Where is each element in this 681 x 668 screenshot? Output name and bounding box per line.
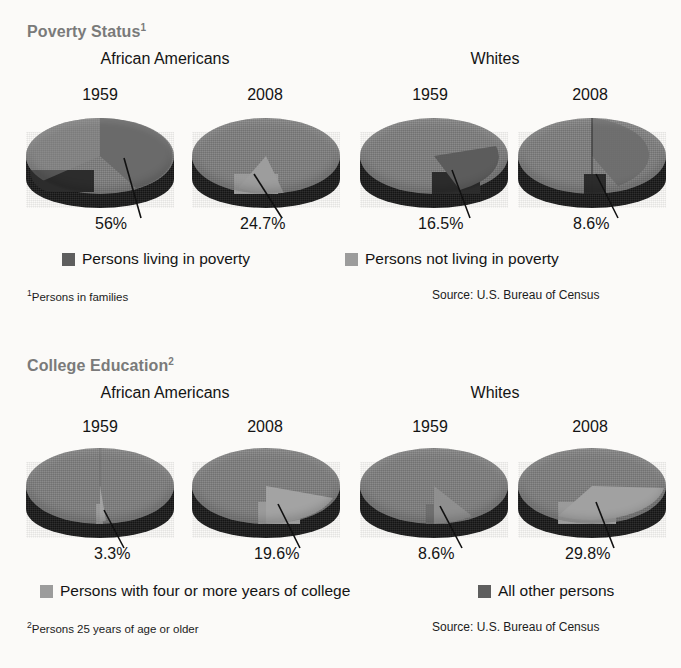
pie-value-label: 8.6% <box>573 215 609 233</box>
pie-chart: 24.7% <box>192 118 340 226</box>
legend-item: All other persons <box>478 582 614 600</box>
section-title-footnote-marker: 1 <box>140 22 146 33</box>
pie-chart: 8.6% <box>518 118 666 226</box>
pie-chart: 8.6% <box>360 448 508 556</box>
legend-label: Persons with four or more years of colle… <box>60 582 350 600</box>
legend-swatch-icon <box>40 585 53 598</box>
pie-value-label: 56% <box>95 215 127 233</box>
footnote-left-text: Persons in families <box>32 291 129 303</box>
legend-swatch-icon <box>345 253 358 266</box>
pie-chart: 3.3% <box>26 448 174 556</box>
year-label: 1959 <box>40 418 160 436</box>
figure-page: Poverty Status1 African Americans Whites… <box>0 0 681 668</box>
pie-value-label: 24.7% <box>240 215 285 233</box>
footnote-left-text: Persons 25 years of age or older <box>32 623 199 635</box>
legend-label: Persons not living in poverty <box>365 250 559 268</box>
year-label: 2008 <box>530 86 650 104</box>
section-title: College Education2 <box>27 356 174 375</box>
year-label: 1959 <box>40 86 160 104</box>
group-label-whites: Whites <box>345 384 645 402</box>
section-title-footnote-marker: 2 <box>168 356 174 367</box>
section-title-text: College Education <box>27 357 168 374</box>
legend-swatch-icon <box>62 253 75 266</box>
section-title-text: Poverty Status <box>27 23 140 40</box>
year-label: 2008 <box>205 86 325 104</box>
legend-swatch-icon <box>478 585 491 598</box>
legend-item: Persons with four or more years of colle… <box>40 582 350 600</box>
legend-label: All other persons <box>498 582 614 600</box>
section-title: Poverty Status1 <box>27 22 146 41</box>
ghost-text <box>430 6 434 24</box>
year-label: 1959 <box>370 86 490 104</box>
pie-value-label: 16.5% <box>418 215 463 233</box>
pie-chart: 29.8% <box>518 448 666 556</box>
group-label-whites: Whites <box>345 50 645 68</box>
pie-chart: 19.6% <box>192 448 340 556</box>
pie-value-label: 8.6% <box>418 545 454 563</box>
year-label: 1959 <box>370 418 490 436</box>
legend-item: Persons living in poverty <box>62 250 250 268</box>
pie-chart: 56% <box>26 118 174 226</box>
footnote-source: Source: U.S. Bureau of Census <box>432 288 599 302</box>
footnote-left: 2Persons 25 years of age or older <box>27 620 199 635</box>
year-label: 2008 <box>205 418 325 436</box>
footnote-left: 1Persons in families <box>27 288 128 303</box>
pie-value-label: 3.3% <box>94 545 130 563</box>
group-label-african-americans: African Americans <box>15 50 315 68</box>
ghost-text <box>432 300 436 317</box>
pie-value-label: 29.8% <box>565 545 610 563</box>
group-label-african-americans: African Americans <box>15 384 315 402</box>
footnote-source: Source: U.S. Bureau of Census <box>432 620 599 634</box>
pie-value-label: 19.6% <box>254 545 299 563</box>
pie-chart: 16.5% <box>360 118 508 226</box>
year-label: 2008 <box>530 418 650 436</box>
legend-item: Persons not living in poverty <box>345 250 559 268</box>
legend-label: Persons living in poverty <box>82 250 250 268</box>
